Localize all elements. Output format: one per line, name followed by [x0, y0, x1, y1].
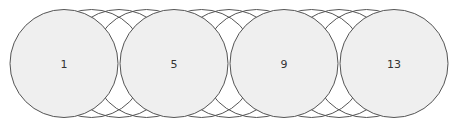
labeled-circle-1: 1: [10, 10, 118, 118]
labeled-circle-13: 13: [340, 10, 448, 118]
circle-label: 13: [387, 58, 401, 71]
circle-label: 9: [281, 58, 288, 71]
diagram-canvas: 15913: [0, 0, 459, 124]
circle-label: 1: [61, 58, 68, 71]
labeled-circles: 15913: [10, 10, 448, 118]
labeled-circle-9: 9: [230, 10, 338, 118]
circle-diagram: 15913: [0, 0, 459, 124]
labeled-circle-5: 5: [120, 10, 228, 118]
circle-label: 5: [171, 58, 178, 71]
